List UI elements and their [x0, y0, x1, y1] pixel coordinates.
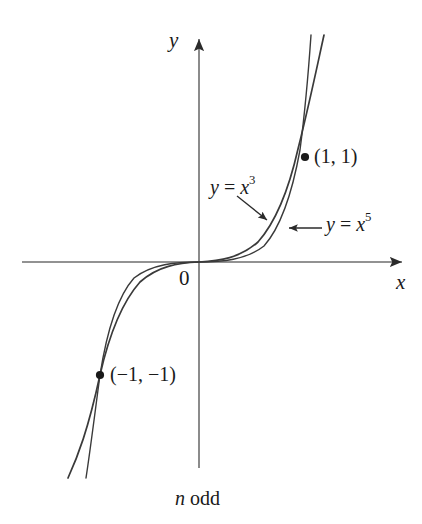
curve-cubic [68, 35, 324, 478]
caption-text: odd [185, 487, 220, 509]
origin-label: 0 [179, 268, 190, 289]
curve-label-quintic-x: x [356, 213, 365, 235]
curve-label-cubic-x: x [240, 176, 249, 198]
curve-label-quintic-y: y [326, 213, 335, 235]
plot-canvas [0, 0, 422, 524]
cubic-annotation-arrow [237, 196, 267, 220]
y-axis-label: y [169, 30, 178, 51]
curve-label-quintic-equals: = [335, 213, 356, 235]
point-label-1-1: (1, 1) [314, 146, 357, 166]
caption-variable: n [175, 487, 185, 509]
figure-caption: n odd [175, 488, 220, 508]
x-axis-label: x [396, 272, 405, 293]
figure-container: y x 0 (1, 1) (−1, −1) y = x3 y = x5 n od… [0, 0, 422, 524]
curve-label-cubic-exponent: 3 [249, 173, 255, 187]
curve-label-quintic-exponent: 5 [365, 210, 371, 224]
curve-label-quintic: y = x5 [326, 213, 371, 234]
curve-label-cubic-equals: = [219, 176, 240, 198]
curve-label-cubic-y: y [210, 176, 219, 198]
point-marker-neg1-neg1 [96, 371, 104, 379]
point-marker-1-1 [301, 153, 309, 161]
point-label-neg1-neg1: (−1, −1) [110, 364, 176, 384]
curve-label-cubic: y = x3 [210, 176, 255, 197]
